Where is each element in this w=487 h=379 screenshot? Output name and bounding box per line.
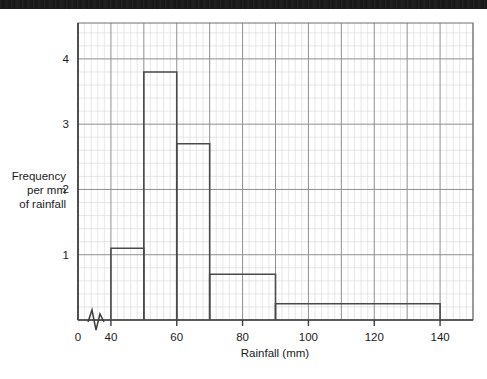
x-tick-label: 40 bbox=[105, 331, 118, 343]
y-tick-label: 4 bbox=[63, 53, 70, 65]
y-tick-label: 1 bbox=[63, 249, 69, 261]
y-axis-title-line-1: Frequency bbox=[12, 170, 67, 182]
y-axis-title-line-3: of rainfall bbox=[19, 198, 66, 210]
x-tick-label: 60 bbox=[170, 331, 183, 343]
x-tick-label: 140 bbox=[430, 331, 449, 343]
y-tick-labels: 1234 bbox=[63, 53, 70, 261]
x-tick-marks bbox=[111, 320, 440, 326]
x-axis-title: Rainfall (mm) bbox=[241, 347, 310, 359]
histogram-figure: 0406080100120140 1234 Rainfall (mm) Freq… bbox=[0, 0, 487, 379]
x-tick-label: 0 bbox=[75, 331, 81, 343]
x-tick-labels: 0406080100120140 bbox=[75, 331, 450, 343]
x-tick-label: 80 bbox=[236, 331, 249, 343]
y-axis-title-line-2: per mm bbox=[27, 184, 66, 196]
y-tick-label: 3 bbox=[63, 118, 69, 130]
histogram-svg: 0406080100120140 1234 Rainfall (mm) Freq… bbox=[0, 0, 487, 379]
x-tick-label: 120 bbox=[365, 331, 384, 343]
x-tick-label: 100 bbox=[299, 331, 318, 343]
